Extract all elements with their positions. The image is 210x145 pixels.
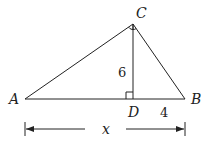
label-CD-length: 6 (118, 65, 126, 80)
label-A: A (7, 91, 19, 107)
label-DB-length: 4 (160, 105, 168, 120)
triangle-diagram: A B C D 6 4 x (0, 0, 210, 145)
segment-CB (133, 24, 185, 99)
arrowhead-right-icon (176, 126, 184, 132)
label-x: x (102, 121, 110, 137)
label-B: B (190, 91, 201, 107)
arrowhead-left-icon (26, 126, 34, 132)
segment-AC (25, 24, 133, 99)
label-D: D (127, 104, 139, 120)
label-C: C (136, 5, 147, 21)
right-angle-mark-D (126, 92, 133, 99)
